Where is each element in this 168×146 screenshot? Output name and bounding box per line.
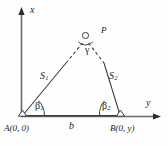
- station-marker-b-triangle-icon: [116, 110, 124, 116]
- angle-beta1-subscript: 1: [40, 104, 43, 111]
- point-p-label: P: [101, 26, 107, 35]
- x-axis-label-text: x: [30, 4, 34, 15]
- geometry-figure: x y P γ S1 S2 b β1 β2 A(0, 0) B(0, y): [0, 0, 168, 146]
- point-a-coords: (0, 0): [10, 123, 30, 133]
- side-s1-label: S1: [40, 71, 48, 82]
- angle-beta2-subscript: 2: [107, 104, 110, 111]
- y-axis-label: y: [146, 98, 150, 108]
- point-b-coords: (0, y): [116, 123, 135, 133]
- x-axis-label: x: [30, 5, 34, 15]
- angle-gamma-label: γ: [85, 45, 89, 55]
- point-b-label: B(0, y): [110, 124, 135, 133]
- side-s1-dashed: [66, 43, 83, 63]
- station-marker-a-triangle-icon: [18, 110, 26, 116]
- side-s1-subscript: 1: [45, 74, 48, 81]
- base-b-label: b: [69, 121, 74, 131]
- angle-beta1-label: β1: [35, 101, 44, 112]
- angle-beta2-label: β2: [102, 101, 111, 112]
- station-marker-p-circle-icon: [82, 32, 88, 38]
- side-s2-label: S2: [109, 71, 117, 82]
- x-axis-arrowhead: [18, 7, 24, 15]
- y-axis-arrowhead: [153, 113, 161, 119]
- point-a-label: A(0, 0): [4, 124, 29, 133]
- y-axis-label-text: y: [146, 97, 150, 108]
- side-s2-subscript: 2: [114, 74, 117, 81]
- side-s2-dashed: [89, 43, 105, 63]
